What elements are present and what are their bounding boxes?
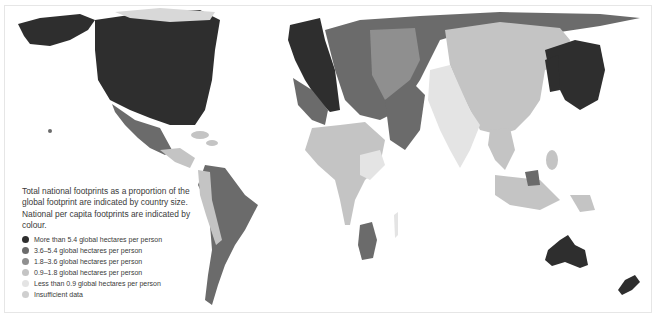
legend-list: More than 5.4 global hectares per person… [22,234,202,300]
region-papua [570,195,595,212]
swatch-icon [22,280,29,287]
region-central-america [160,148,195,168]
swatch-icon [22,269,29,276]
swatch-icon [22,291,29,298]
legend-item: 1.8–3.6 global hectares per person [22,256,202,267]
legend-item: 3.6–5.4 global hectares per person [22,245,202,256]
region-south-africa [358,222,377,260]
swatch-icon [22,236,29,243]
swatch-icon [22,247,29,254]
legend-item: Less than 0.9 global hectares per person [22,278,202,289]
region-africa-east [360,150,385,180]
region-new-zealand [618,275,640,295]
region-madagascar [394,212,398,238]
legend-title: Total national footprints as a proportio… [22,186,202,231]
swatch-icon [22,258,29,265]
region-alaska [18,14,95,46]
region-se-asia [488,128,515,170]
region-korea [545,55,560,92]
legend-item: Insufficient data [22,289,202,300]
legend: Total national footprints as a proportio… [22,186,202,300]
region-australia [545,235,588,268]
legend-item: 0.9–1.8 global hectares per person [22,267,202,278]
legend-item: More than 5.4 global hectares per person [22,234,202,245]
